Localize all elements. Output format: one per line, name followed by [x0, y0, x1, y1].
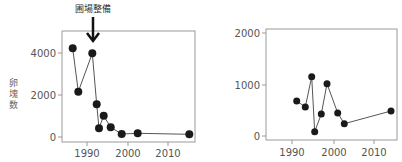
data-point [341, 120, 348, 127]
left-series-markers [69, 44, 194, 138]
right-chart: 2000 1000 0 1990 2000 2010 [235, 28, 397, 158]
left-ylabel-char: 数 [9, 99, 18, 110]
right-xtick-label: 1990 [279, 147, 304, 158]
down-arrow-icon [87, 17, 99, 41]
left-xtick-label: 2010 [155, 148, 180, 159]
data-point [100, 112, 108, 120]
right-xtick-label: 2010 [361, 147, 386, 158]
annotation-label: 圃場整備 [75, 3, 111, 14]
data-point [74, 88, 82, 96]
right-ytick-label: 0 [254, 131, 260, 142]
data-point [311, 128, 318, 135]
data-point [134, 129, 142, 137]
data-point [302, 104, 309, 111]
data-point [107, 123, 115, 131]
data-point [88, 49, 96, 57]
data-point [324, 80, 331, 87]
right-series-markers [293, 73, 394, 135]
left-xtick-label: 1990 [74, 148, 99, 159]
data-point [95, 124, 103, 132]
figure: 4000 2000 0 1990 2000 2010 卵 塊 数 圃場整備 [0, 0, 402, 162]
data-point [334, 110, 341, 117]
data-point [93, 100, 101, 108]
left-ytick-label: 2000 [31, 90, 56, 101]
left-xtick-label: 2000 [115, 148, 140, 159]
data-point [388, 108, 395, 115]
data-point [118, 130, 126, 138]
data-point [185, 130, 193, 138]
left-ytick-label: 0 [50, 132, 56, 143]
left-series-line [73, 48, 190, 134]
right-plot-frame [266, 29, 397, 140]
data-point [69, 44, 77, 52]
data-point [293, 98, 300, 105]
left-plot-frame [62, 31, 195, 142]
left-ylabel-char: 塊 [9, 88, 18, 99]
left-chart: 4000 2000 0 1990 2000 2010 卵 塊 数 圃場整備 [9, 3, 196, 159]
left-ytick-label: 4000 [31, 48, 56, 59]
right-ytick-label: 1000 [235, 80, 260, 91]
right-xtick-label: 2000 [321, 147, 346, 158]
data-point [318, 111, 325, 118]
data-point [308, 73, 315, 80]
right-ytick-label: 2000 [235, 28, 260, 39]
left-ylabel-char: 卵 [9, 78, 18, 88]
